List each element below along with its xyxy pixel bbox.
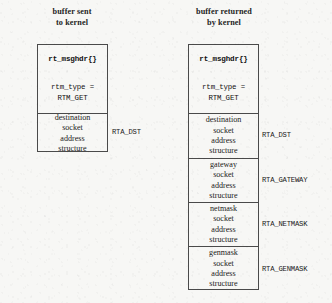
sent-destination-line-4: structure bbox=[58, 144, 86, 154]
sent-rtm-type-value: RTM_GET bbox=[51, 93, 94, 104]
returned-gateway-line-4: structure bbox=[209, 191, 237, 201]
right-heading-line-1: buffer returned bbox=[168, 6, 280, 17]
right-heading-line-2: by kernel bbox=[168, 17, 280, 28]
right-column-heading: buffer returned by kernel bbox=[168, 6, 280, 28]
returned-gateway-segment: gateway socket address structure bbox=[189, 158, 258, 202]
returned-netmask-line-3: address bbox=[211, 225, 235, 235]
sent-rtm-type-block: rtm_type = RTM_GET bbox=[51, 82, 94, 104]
sent-rta-dst-label: RTA_DST bbox=[112, 128, 141, 137]
returned-rta-gateway-label: RTA_GATEWAY bbox=[262, 176, 307, 185]
returned-rtm-type-value: RTM_GET bbox=[202, 93, 245, 104]
buffer-sent-box: rt_msghdr{} rtm_type = RTM_GET destinati… bbox=[37, 44, 108, 152]
sent-destination-line-1: destination bbox=[55, 113, 91, 123]
returned-gateway-line-2: socket bbox=[213, 170, 234, 180]
left-heading-line-2: to kernel bbox=[18, 17, 126, 28]
left-column-heading: buffer sent to kernel bbox=[18, 6, 126, 28]
returned-rtm-type-block: rtm_type = RTM_GET bbox=[202, 82, 245, 104]
left-heading-line-1: buffer sent bbox=[18, 6, 126, 17]
returned-genmask-segment: genmask socket address structure bbox=[189, 246, 258, 291]
sent-struct-name: rt_msghdr{} bbox=[48, 54, 96, 65]
returned-rta-genmask-label: RTA_GENMASK bbox=[262, 265, 307, 274]
returned-genmask-line-2: socket bbox=[213, 259, 234, 269]
returned-genmask-line-3: address bbox=[211, 269, 235, 279]
returned-destination-line-3: address bbox=[211, 136, 235, 146]
returned-netmask-line-1: netmask bbox=[210, 204, 237, 214]
returned-gateway-line-3: address bbox=[211, 181, 235, 191]
sent-destination-line-3: address bbox=[60, 134, 84, 144]
returned-header-segment: rt_msghdr{} rtm_type = RTM_GET bbox=[189, 45, 258, 113]
returned-genmask-line-4: structure bbox=[209, 279, 237, 289]
returned-destination-line-1: destination bbox=[206, 115, 242, 125]
returned-genmask-line-1: genmask bbox=[209, 248, 238, 258]
returned-rta-netmask-label: RTA_NETMASK bbox=[262, 220, 307, 229]
sent-header-segment: rt_msghdr{} rtm_type = RTM_GET bbox=[38, 45, 107, 113]
returned-destination-segment: destination socket address structure bbox=[189, 113, 258, 158]
returned-rta-dst-label: RTA_DST bbox=[262, 131, 291, 140]
returned-netmask-line-4: structure bbox=[209, 235, 237, 245]
returned-gateway-line-1: gateway bbox=[210, 160, 237, 170]
sent-rtm-type-field: rtm_type = bbox=[51, 82, 94, 93]
returned-destination-line-4: structure bbox=[209, 146, 237, 156]
returned-struct-name: rt_msghdr{} bbox=[199, 54, 247, 65]
returned-netmask-segment: netmask socket address structure bbox=[189, 202, 258, 246]
returned-netmask-line-2: socket bbox=[213, 214, 234, 224]
buffer-returned-box: rt_msghdr{} rtm_type = RTM_GET destinati… bbox=[188, 44, 259, 290]
returned-destination-line-2: socket bbox=[213, 126, 234, 136]
sent-destination-line-2: socket bbox=[62, 123, 83, 133]
returned-rtm-type-field: rtm_type = bbox=[202, 82, 245, 93]
sent-destination-segment: destination socket address structure bbox=[38, 113, 107, 153]
